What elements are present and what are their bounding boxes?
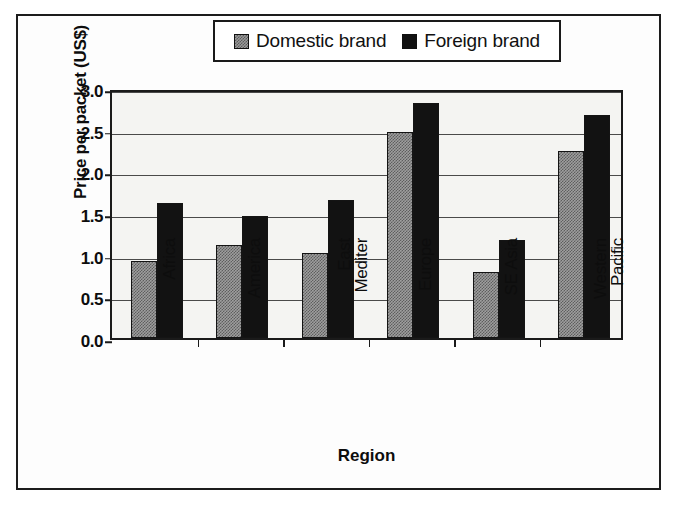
legend-label-foreign: Foreign brand	[424, 30, 540, 52]
legend-item-foreign: Foreign brand	[402, 30, 540, 52]
x-axis-title: Region	[110, 446, 623, 466]
x-axis-tick-mark	[198, 338, 200, 347]
y-axis-tick-mark	[105, 341, 112, 343]
x-axis-category-label: Europe	[417, 238, 434, 348]
x-axis-category-label: Western Pacific	[592, 238, 627, 348]
y-axis-tick-label: 0.0	[81, 332, 103, 352]
x-axis-category-label: SE Asia	[503, 238, 520, 348]
y-axis-tick-label: 3.0	[81, 82, 103, 102]
bar-domestic	[131, 261, 157, 339]
y-axis-tick-mark	[105, 91, 112, 93]
gridline	[112, 134, 621, 135]
y-axis-tick-label: 1.0	[81, 249, 103, 269]
y-axis-tick-mark	[105, 216, 112, 218]
bar-domestic	[302, 253, 328, 338]
x-axis-tick-mark	[283, 338, 285, 347]
chart-legend: Domestic brand Foreign brand	[213, 20, 561, 62]
bar-domestic	[558, 151, 584, 339]
bar-chart: Price per packet (US$) 0.00.51.01.52.02.…	[18, 16, 663, 492]
foreign-swatch-icon	[402, 34, 417, 49]
page-border: Price per packet (US$) 0.00.51.01.52.02.…	[16, 14, 661, 490]
x-axis-category-label: Africa	[161, 238, 178, 348]
x-axis-category-label: America	[246, 238, 263, 348]
y-axis-tick-label: 2.5	[81, 124, 103, 144]
legend-label-domestic: Domestic brand	[256, 30, 386, 52]
x-axis-tick-mark	[540, 338, 542, 347]
gridline	[112, 217, 621, 218]
legend-item-domestic: Domestic brand	[234, 30, 386, 52]
x-axis-tick-mark	[454, 338, 456, 347]
y-axis-tick-mark	[105, 258, 112, 260]
y-axis-tick-mark	[105, 133, 112, 135]
y-axis-tick-label: 2.0	[81, 165, 103, 185]
x-axis-category-label: East Mediter	[336, 238, 371, 348]
bar-domestic	[216, 245, 242, 338]
bar-domestic	[473, 272, 499, 338]
y-axis-tick-label: 0.5	[81, 290, 103, 310]
domestic-swatch-icon	[234, 34, 249, 49]
y-axis-title: Price per packet (US$)	[71, 0, 91, 237]
gridline	[112, 175, 621, 176]
y-axis-tick-mark	[105, 175, 112, 177]
bar-domestic	[387, 132, 413, 338]
y-axis-tick-mark	[105, 300, 112, 302]
y-axis-tick-label: 1.5	[81, 207, 103, 227]
gridline	[112, 92, 621, 93]
